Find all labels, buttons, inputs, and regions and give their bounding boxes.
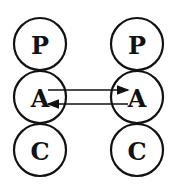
left-adult-label: A — [30, 84, 50, 113]
left-child-label: C — [30, 137, 49, 166]
left-person-ego-states: P A C — [14, 18, 66, 176]
right-parent-state: P — [111, 18, 163, 70]
left-parent-label: P — [31, 31, 49, 60]
right-child-label: C — [127, 137, 146, 166]
left-parent-state: P — [14, 18, 66, 70]
left-adult-state: A — [14, 71, 66, 123]
left-child-state: C — [14, 124, 66, 176]
right-adult-label: A — [127, 84, 147, 113]
right-person-ego-states: P A C — [111, 18, 163, 176]
right-parent-label: P — [128, 31, 146, 60]
right-adult-state: A — [111, 71, 163, 123]
pac-diagram: P A C P A C — [0, 0, 175, 187]
right-child-state: C — [111, 124, 163, 176]
